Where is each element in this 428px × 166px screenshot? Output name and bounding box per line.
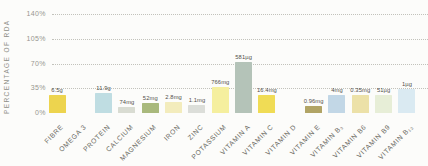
bar [212,87,229,113]
bar [305,106,322,113]
gridline-140% [52,14,428,15]
bar [352,95,369,113]
bar [398,89,415,113]
y-tick-label: 140% [12,10,46,17]
bar-value-label: 1.1mg [180,97,214,103]
bar [328,95,345,113]
bar-value-label: 6.5g [40,87,74,93]
bar [142,103,159,113]
bar-value-label: 51µg [367,87,401,93]
bar [258,95,275,113]
bar-value-label: 11.9g [87,85,121,91]
bar-value-label: 766mg [203,79,237,85]
rda-bar-chart: PERCENTAGE OF RDA 140%105%70%35%0%6.5gFI… [0,0,428,166]
bar [118,107,135,113]
y-tick-label: 70% [12,60,46,67]
bar [165,102,182,113]
bar [375,95,392,113]
y-axis-title: PERCENTAGE OF RDA [3,16,10,118]
bar [49,95,66,113]
bar [188,105,205,113]
y-tick-label: 105% [12,35,46,42]
bar-value-label: 581µg [227,54,261,60]
bar-value-label: 16.4mg [250,87,284,93]
bar-value-label: 0.96mg [297,98,331,104]
bar-value-label: 1µg [390,81,424,87]
y-tick-label: 0% [12,109,46,116]
gridline-105% [52,39,428,40]
